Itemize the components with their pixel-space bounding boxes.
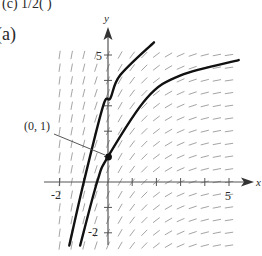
slope-segment — [83, 216, 85, 224]
slope-segment — [130, 204, 135, 211]
slope-segment — [165, 142, 172, 146]
slope-segment — [130, 102, 135, 109]
slope-segment — [213, 80, 221, 82]
slope-segment — [141, 154, 147, 160]
slope-segment — [95, 102, 98, 110]
x-tick-label-5: 5 — [225, 189, 231, 203]
slope-field — [59, 51, 233, 250]
slope-segment — [153, 65, 160, 70]
slope-segment — [83, 191, 85, 199]
slope-segment — [165, 231, 172, 235]
slope-segment — [153, 205, 160, 210]
slope-segment — [71, 127, 73, 135]
slope-segment — [189, 66, 197, 69]
slope-segment — [83, 203, 85, 211]
slope-segment — [59, 89, 60, 97]
slope-segment — [177, 66, 185, 69]
slope-segment — [165, 116, 172, 120]
slope-segment — [225, 54, 233, 55]
slope-segment — [59, 165, 60, 173]
slope-segment — [177, 244, 185, 247]
slope-segment — [59, 114, 60, 122]
slope-segment — [59, 241, 60, 249]
slope-segment — [189, 104, 197, 107]
point-marker — [105, 154, 112, 161]
slope-segment — [130, 191, 135, 198]
solution-curve-1 — [69, 42, 154, 245]
slope-field-figure: (c) 1/2( ) (a) x y -2 5 5 -2 (0, 1) — [0, 0, 262, 256]
slope-segment — [141, 116, 147, 122]
slope-segment — [83, 127, 85, 135]
slope-segment — [225, 169, 233, 170]
slope-segment — [95, 153, 98, 161]
slope-segment — [118, 153, 122, 160]
slope-segment — [71, 203, 73, 211]
slope-segment — [177, 142, 185, 145]
slope-segment — [213, 105, 221, 107]
slope-segment — [153, 78, 160, 83]
slope-segment — [141, 192, 147, 198]
slope-segment — [118, 229, 122, 236]
slope-segment — [95, 89, 98, 97]
slope-segment — [213, 232, 221, 234]
slope-segment — [153, 52, 160, 57]
slope-segment — [189, 117, 197, 120]
slope-segment — [130, 141, 135, 148]
slope-segment — [213, 54, 221, 56]
slope-segment — [130, 52, 135, 59]
slope-segment — [59, 216, 60, 224]
slope-segment — [201, 206, 209, 208]
slope-segment — [141, 141, 147, 147]
slope-segment — [153, 154, 160, 159]
slope-segment — [83, 241, 85, 249]
slope-segment — [153, 218, 160, 223]
slope-segment — [225, 219, 233, 220]
slope-segment — [177, 231, 185, 234]
y-tick-label-neg2: -2 — [88, 225, 98, 239]
slope-segment — [165, 53, 172, 57]
top-text: (c) 1/2( ) — [2, 0, 52, 12]
slope-segment — [59, 51, 60, 59]
slope-segment — [141, 230, 147, 236]
slope-segment — [165, 91, 172, 95]
slope-segment — [83, 51, 85, 59]
slope-segment — [201, 54, 209, 56]
slope-segment — [153, 192, 160, 197]
solution-curves — [69, 42, 238, 245]
slope-segment — [165, 205, 172, 209]
slope-segment — [201, 219, 209, 221]
slope-segment — [177, 218, 185, 221]
slope-segment — [153, 230, 160, 235]
slope-segment — [177, 193, 185, 196]
slope-segment — [130, 90, 135, 97]
part-label: (a) — [0, 24, 16, 45]
slope-segment — [189, 79, 197, 82]
slope-segment — [130, 128, 135, 135]
slope-segment — [153, 103, 160, 108]
slope-segment — [141, 204, 147, 210]
slope-segment — [177, 168, 185, 171]
slope-segment — [153, 167, 160, 172]
slope-segment — [141, 77, 147, 83]
x-axis — [44, 178, 254, 187]
slope-segment — [59, 203, 60, 211]
slope-segment — [141, 166, 147, 172]
slope-segment — [71, 165, 73, 173]
slope-segment — [189, 143, 197, 146]
slope-segment — [213, 143, 221, 145]
slope-segment — [95, 115, 98, 123]
slope-segment — [59, 229, 60, 237]
slope-segment — [141, 65, 147, 71]
slope-segment — [130, 77, 135, 84]
slope-segment — [59, 127, 60, 135]
slope-segment — [141, 128, 147, 134]
slope-segment — [225, 131, 233, 132]
slope-segment — [83, 114, 85, 122]
slope-segment — [118, 115, 122, 122]
slope-segment — [130, 153, 135, 160]
slope-segment — [213, 194, 221, 196]
slope-segment — [130, 229, 135, 236]
slope-segment — [201, 232, 209, 234]
slope-segment — [213, 67, 221, 69]
slope-segment — [213, 168, 221, 170]
